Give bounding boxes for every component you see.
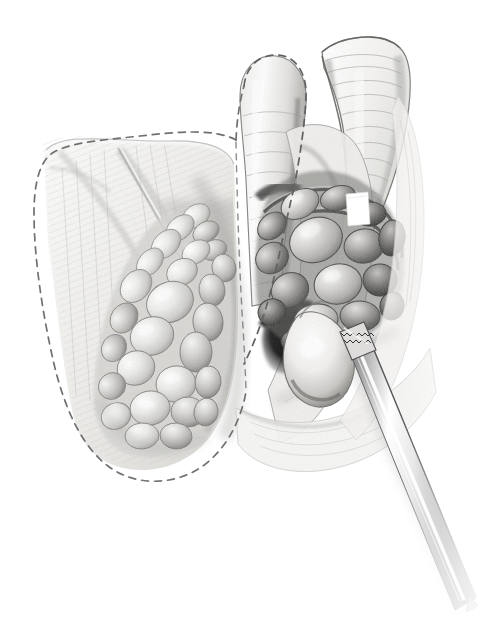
paper-grain-overlay [0,0,487,622]
medical-illustration-figure: Surgical pencil illustration of the ileo… [0,0,487,622]
illustration-canvas: Retracted bowel wall (left) [0,0,487,622]
